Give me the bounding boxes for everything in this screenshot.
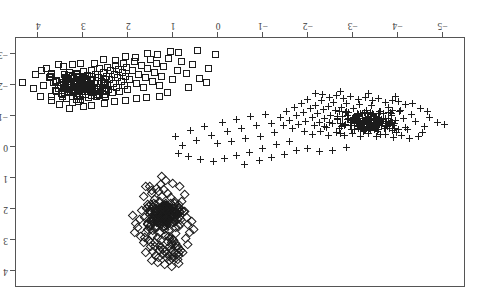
scatter-point xyxy=(268,154,275,161)
scatter-point xyxy=(434,119,441,126)
scatter-point xyxy=(66,105,73,112)
scatter-point xyxy=(154,51,161,58)
scatter-point xyxy=(144,50,151,57)
scatter-point xyxy=(63,75,70,82)
scatter-point xyxy=(172,133,179,140)
scatter-point xyxy=(262,111,269,118)
scatter-point xyxy=(424,108,431,115)
scatter-point xyxy=(169,76,176,83)
scatter-point xyxy=(77,60,84,67)
scatter-point xyxy=(185,84,192,91)
scatter-point xyxy=(355,96,362,103)
scatter-point xyxy=(298,101,305,108)
scatter-point xyxy=(124,86,131,93)
scatter-point xyxy=(193,137,200,144)
scatter-point xyxy=(246,149,253,156)
scatter-point xyxy=(75,98,82,105)
scatter-point xyxy=(48,94,55,101)
scatter-point xyxy=(342,121,349,128)
scatter-point xyxy=(441,121,448,128)
clipped-title-text xyxy=(21,299,471,304)
scatter-point xyxy=(283,108,290,115)
scatter-point xyxy=(256,157,263,164)
scatter-point xyxy=(59,93,66,100)
scatter-point xyxy=(321,123,328,130)
scatter-point xyxy=(337,130,344,137)
scatter-point xyxy=(316,148,323,155)
scatter-point xyxy=(71,84,78,91)
scatter-point xyxy=(56,101,63,108)
scatter-point xyxy=(289,125,296,132)
scatter-point xyxy=(301,128,308,135)
scatter-point xyxy=(104,82,111,89)
scatter-point xyxy=(392,93,399,100)
scatter-point xyxy=(38,67,45,74)
rotated-figure: 43210−1−2−3−4−5 −3−2−101234 xyxy=(0,0,486,304)
scatter-point xyxy=(380,110,387,117)
scatter-point xyxy=(253,122,260,129)
scatter-point xyxy=(402,101,409,108)
scatter-point xyxy=(309,114,316,121)
scatter-point xyxy=(268,120,275,127)
scatter-point xyxy=(304,145,311,152)
scatter-point xyxy=(132,54,139,61)
figure-canvas: 43210−1−2−3−4−5 −3−2−101234 xyxy=(0,0,486,304)
scatter-point xyxy=(60,84,67,91)
scatter-point xyxy=(111,98,118,105)
scatter-point xyxy=(40,82,47,89)
scatter-point xyxy=(165,55,172,62)
scatter-point xyxy=(259,145,266,152)
scatter-point xyxy=(402,124,409,131)
scatter-point xyxy=(389,119,396,126)
scatter-point xyxy=(156,82,163,89)
scatter-point xyxy=(286,138,293,145)
scatter-point xyxy=(219,119,226,126)
scatter-point xyxy=(221,155,228,162)
scatter-point xyxy=(91,60,98,67)
scatter-point xyxy=(286,117,293,124)
scatter-point xyxy=(205,65,212,72)
scatter-point xyxy=(208,132,215,139)
scatter-point xyxy=(100,56,107,63)
scatter-point xyxy=(293,112,300,119)
scatter-point xyxy=(419,129,426,136)
scatter-point xyxy=(408,111,415,118)
scatter-point xyxy=(48,71,55,78)
scatter-point xyxy=(387,109,394,116)
scatter-point xyxy=(187,127,194,134)
scatter-point xyxy=(224,129,231,136)
scatter-point xyxy=(271,129,278,136)
scatter-point xyxy=(212,51,219,58)
scatter-point xyxy=(382,99,389,106)
scatter-point xyxy=(302,118,309,125)
scatter-point xyxy=(79,73,86,80)
scatter-point xyxy=(257,133,264,140)
scatter-point xyxy=(293,147,300,154)
scatter-point xyxy=(319,91,326,98)
scatter-point xyxy=(198,156,205,163)
scatter-point xyxy=(179,142,186,149)
scatter-point xyxy=(233,116,240,123)
scatter-point xyxy=(233,152,240,159)
scatter-point xyxy=(156,93,163,100)
scatter-point xyxy=(277,114,284,121)
scatter-point xyxy=(88,102,95,109)
scatter-point xyxy=(336,108,343,115)
scatter-point xyxy=(143,94,150,101)
scatter-point xyxy=(178,58,185,65)
scatter-point xyxy=(396,108,403,115)
scatter-point xyxy=(185,153,192,160)
scatter-point xyxy=(238,125,245,132)
scatter-point xyxy=(291,104,298,111)
scatter-point xyxy=(201,123,208,130)
scatter-point xyxy=(140,84,147,91)
scatter-point xyxy=(329,147,336,154)
scatter-point xyxy=(210,158,217,165)
scatter-point xyxy=(242,135,249,142)
scatter-point xyxy=(167,48,174,55)
scatter-point xyxy=(304,96,311,103)
scatter-point xyxy=(247,113,254,120)
scatter-point xyxy=(194,47,201,54)
scatter-point xyxy=(312,90,319,97)
scatter-point xyxy=(426,114,433,121)
